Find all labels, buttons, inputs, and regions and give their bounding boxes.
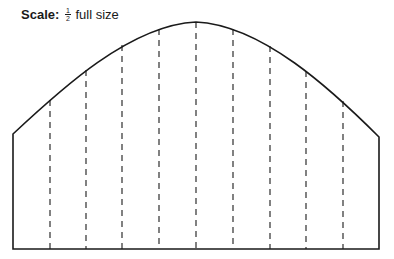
panel-diagram: [0, 0, 394, 259]
section-lines: [50, 22, 343, 249]
